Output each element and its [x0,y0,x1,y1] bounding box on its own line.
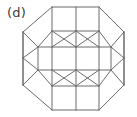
octagon-top-left-bevel [23,7,52,32]
corner-bl-square-a [23,70,38,85]
corner-br-square-a [111,70,124,85]
left-fan-top [23,47,38,58]
octagon-bottom-right-bevel [99,85,124,110]
octagon-top-right-bevel [99,7,124,32]
left-fan-bottom [23,58,38,70]
tiling-edge-group [23,7,124,110]
tri-upper-1 [38,31,52,47]
corner-tl-square-a [23,32,38,47]
tri-lower-9 [99,70,111,86]
figure-panel: (d) [0,0,137,117]
right-fan-bottom [111,58,124,70]
octagon-bottom-left-bevel [23,85,52,110]
corner-tr-square-a [111,32,124,47]
tiling-figure [0,0,137,117]
right-fan-top [111,47,124,58]
tri-upper-9 [99,31,111,47]
tri-lower-1 [38,70,52,86]
